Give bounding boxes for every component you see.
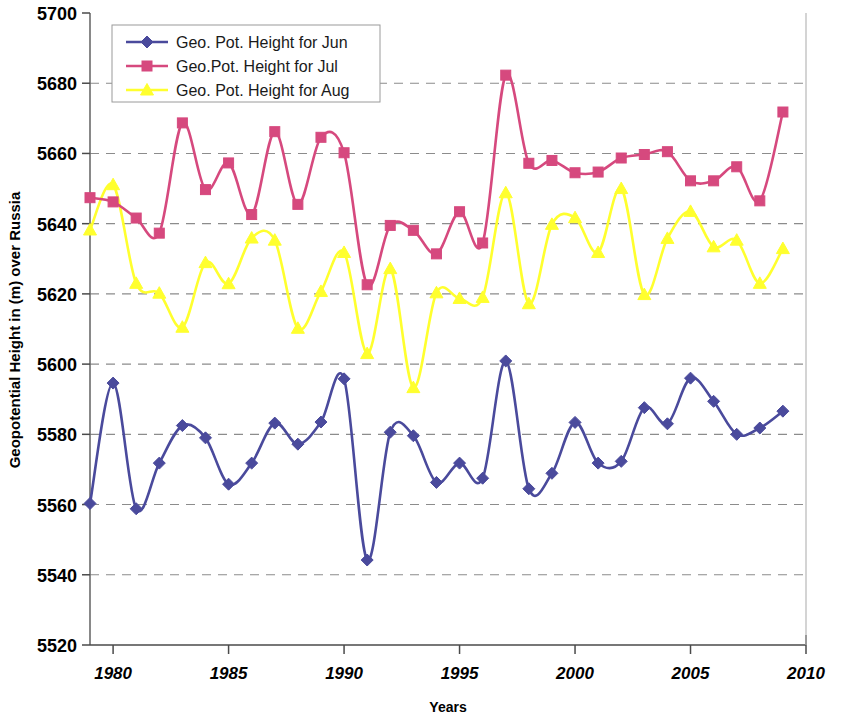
data-point-marker bbox=[224, 158, 234, 168]
data-point-marker bbox=[662, 147, 672, 157]
x-tick-label: 2010 bbox=[786, 664, 825, 683]
data-point-marker bbox=[247, 210, 257, 220]
y-tick-label: 5660 bbox=[37, 144, 77, 164]
x-tick-label: 2005 bbox=[671, 664, 710, 683]
data-point-marker bbox=[478, 238, 488, 248]
y-tick-label: 5620 bbox=[37, 285, 77, 305]
data-point-marker bbox=[316, 132, 326, 142]
x-tick-label: 1995 bbox=[441, 664, 479, 683]
chart-container: 5520554055605580560056205640566056805700… bbox=[0, 0, 861, 722]
data-point-marker bbox=[142, 61, 152, 71]
y-tick-label: 5640 bbox=[37, 215, 77, 235]
geopotential-height-line-chart: 5520554055605580560056205640566056805700… bbox=[0, 0, 861, 722]
legend-label-jun: Geo. Pot. Height for Jun bbox=[176, 34, 348, 51]
x-tick-label: 1980 bbox=[94, 664, 132, 683]
data-point-marker bbox=[616, 153, 626, 163]
data-point-marker bbox=[639, 149, 649, 159]
data-point-marker bbox=[501, 70, 511, 80]
x-tick-label: 1990 bbox=[325, 664, 363, 683]
y-tick-label: 5700 bbox=[37, 4, 77, 24]
data-point-marker bbox=[385, 220, 395, 230]
legend-swatch-marker bbox=[142, 61, 152, 71]
data-point-marker bbox=[709, 176, 719, 186]
data-point-marker bbox=[755, 196, 765, 206]
x-tick-label: 2000 bbox=[555, 664, 594, 683]
x-axis-title: Years bbox=[429, 699, 467, 715]
data-point-marker bbox=[177, 118, 187, 128]
y-tick-label: 5580 bbox=[37, 425, 77, 445]
data-point-marker bbox=[339, 148, 349, 158]
data-point-marker bbox=[593, 167, 603, 177]
x-axis-ticks: 1980198519901995200020052010 bbox=[94, 645, 825, 683]
y-tick-label: 5540 bbox=[37, 566, 77, 586]
data-point-marker bbox=[154, 228, 164, 238]
data-point-marker bbox=[455, 207, 465, 217]
y-tick-label: 5520 bbox=[37, 636, 77, 656]
y-axis-title: Geopotential Height in (m) over Russia bbox=[6, 191, 23, 468]
legend-label-aug: Geo. Pot. Height for Aug bbox=[176, 82, 349, 99]
x-tick-label: 1985 bbox=[210, 664, 248, 683]
data-point-marker bbox=[293, 199, 303, 209]
y-axis-ticks: 5520554055605580560056205640566056805700 bbox=[37, 4, 90, 656]
data-point-marker bbox=[108, 197, 118, 207]
data-point-marker bbox=[362, 280, 372, 290]
data-point-marker bbox=[778, 107, 788, 117]
data-point-marker bbox=[270, 127, 280, 137]
legend-label-jul: Geo.Pot. Height for Jul bbox=[176, 58, 338, 75]
y-tick-label: 5600 bbox=[37, 355, 77, 375]
y-tick-label: 5680 bbox=[37, 74, 77, 94]
data-point-marker bbox=[686, 176, 696, 186]
data-point-marker bbox=[547, 155, 557, 165]
data-point-marker bbox=[732, 162, 742, 172]
data-point-marker bbox=[570, 168, 580, 178]
chart-legend: Geo. Pot. Height for JunGeo.Pot. Height … bbox=[112, 25, 380, 102]
data-point-marker bbox=[524, 158, 534, 168]
data-point-marker bbox=[408, 225, 418, 235]
data-point-marker bbox=[85, 193, 95, 203]
data-point-marker bbox=[131, 213, 141, 223]
data-point-marker bbox=[431, 249, 441, 259]
data-point-marker bbox=[200, 185, 210, 195]
plot-area-background bbox=[90, 13, 806, 645]
y-tick-label: 5560 bbox=[37, 496, 77, 516]
